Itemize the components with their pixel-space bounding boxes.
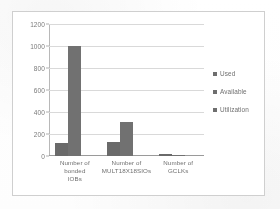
y-tick-label-0: 0 xyxy=(41,153,45,160)
y-tick-label-1000: 1000 xyxy=(30,43,45,50)
bar-available-1 xyxy=(120,122,133,156)
y-tick-label-600: 600 xyxy=(34,87,45,94)
legend-item-used: Used xyxy=(213,70,249,77)
plot-area: 1200 1000 800 600 400 200 0 xyxy=(49,24,204,156)
legend-label-utilization: Utilization xyxy=(220,106,249,113)
x-axis-category-labels: Number of bonded IOBs Number of MULT18X1… xyxy=(49,159,204,183)
bar-used-0 xyxy=(55,143,68,156)
bar-group-2 xyxy=(152,24,204,156)
x-tick-label-0-line1: Number of bonded xyxy=(60,159,90,174)
y-tick-label-800: 800 xyxy=(34,65,45,72)
bar-used-2 xyxy=(159,154,172,156)
x-tick-label-1: Number of MULT18X18SIOs xyxy=(101,159,153,183)
bar-available-0 xyxy=(68,46,81,156)
bar-used-1 xyxy=(107,142,120,156)
x-tick-label-0: Number of bonded IOBs xyxy=(49,159,101,183)
legend-item-utilization: Utilization xyxy=(213,106,249,113)
legend-swatch-available-icon xyxy=(213,90,217,94)
legend-swatch-utilization-icon xyxy=(213,108,217,112)
bar-groups xyxy=(49,24,204,156)
chart-canvas: 1200 1000 800 600 400 200 0 xyxy=(13,12,264,195)
x-tick-label-2-line1: Number of GCLKs xyxy=(163,159,193,174)
y-tick-label-1200: 1200 xyxy=(30,21,45,28)
y-tick-label-400: 400 xyxy=(34,109,45,116)
legend-label-available: Available xyxy=(220,88,247,95)
legend-label-used: Used xyxy=(220,70,235,77)
bar-group-0 xyxy=(49,24,101,156)
legend-swatch-used-icon xyxy=(213,72,217,76)
x-tick-label-2: Number of GCLKs xyxy=(152,159,204,183)
x-tick-label-1-line1: Number of xyxy=(112,159,142,166)
x-tick-label-0-line2: IOBs xyxy=(68,175,82,182)
y-tick-label-200: 200 xyxy=(34,131,45,138)
chart-frame: 1200 1000 800 600 400 200 0 xyxy=(12,11,265,196)
bar-group-1 xyxy=(101,24,153,156)
legend-item-available: Available xyxy=(213,88,249,95)
x-tick-label-1-line2: MULT18X18SIOs xyxy=(102,167,151,174)
chart-legend: Used Available Utilization xyxy=(213,70,249,113)
bar-available-2 xyxy=(172,155,185,156)
